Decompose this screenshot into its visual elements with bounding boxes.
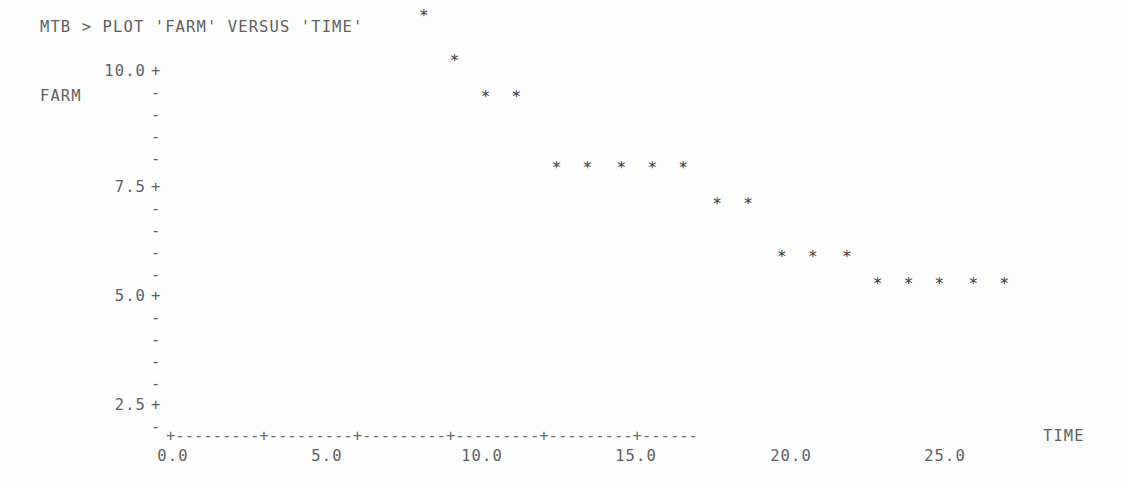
y-axis-tick-label: 5.0 [86, 287, 146, 305]
y-axis-major-tick: + [151, 178, 160, 196]
data-point-marker: * [449, 53, 460, 69]
data-point-marker: * [776, 249, 787, 265]
x-axis-tick-label: 25.0 [910, 447, 980, 465]
y-axis-major-tick: + [151, 396, 160, 414]
y-axis-minor-tick: - [151, 266, 160, 284]
data-point-marker: * [582, 160, 593, 176]
x-axis-tick-label: 10.0 [447, 447, 517, 465]
data-point-marker: * [999, 276, 1010, 292]
data-point-marker: * [616, 160, 627, 176]
y-axis-minor-tick: - [151, 309, 160, 327]
data-point-marker: * [418, 8, 429, 24]
y-axis-minor-tick: - [151, 200, 160, 218]
y-axis-tick-label: 10.0 [86, 62, 146, 80]
data-point-marker: * [712, 196, 723, 212]
y-axis-minor-tick: - [151, 222, 160, 240]
minitab-plot-screen: MTB > PLOT 'FARM' VERSUS 'TIME' FARM +10… [0, 0, 1129, 486]
y-axis-minor-tick: - [151, 418, 160, 436]
y-axis-major-tick: + [151, 287, 160, 305]
data-point-marker: * [551, 160, 562, 176]
y-axis-tick-label: 2.5 [86, 396, 146, 414]
data-point-marker: * [968, 276, 979, 292]
data-point-marker: * [480, 89, 491, 105]
data-point-marker: * [903, 276, 914, 292]
y-axis-tick-label: 7.5 [86, 178, 146, 196]
x-axis-tick-label: 20.0 [756, 447, 826, 465]
data-point-marker: * [678, 160, 689, 176]
data-point-marker: * [841, 249, 852, 265]
data-point-marker: * [934, 276, 945, 292]
x-axis-tick-label: 0.0 [138, 447, 208, 465]
x-axis-line: +---------+---------+---------+---------… [166, 427, 698, 445]
plot-area: +10.0----+7.5----+5.0----+2.5- +--------… [0, 0, 1129, 486]
y-axis-minor-tick: - [151, 244, 160, 262]
data-point-marker: * [742, 196, 753, 212]
x-axis-title: TIME [1043, 427, 1085, 445]
y-axis-minor-tick: - [151, 106, 160, 124]
y-axis-minor-tick: - [151, 331, 160, 349]
y-axis-minor-tick: - [151, 150, 160, 168]
y-axis-minor-tick: - [151, 353, 160, 371]
x-axis-tick-label: 5.0 [292, 447, 362, 465]
y-axis-minor-tick: - [151, 128, 160, 146]
x-axis-tick-label: 15.0 [601, 447, 671, 465]
y-axis-minor-tick: - [151, 84, 160, 102]
data-point-marker: * [647, 160, 658, 176]
data-point-marker: * [511, 89, 522, 105]
y-axis-minor-tick: - [151, 375, 160, 393]
data-point-marker: * [872, 276, 883, 292]
y-axis-major-tick: + [151, 62, 160, 80]
data-point-marker: * [807, 249, 818, 265]
